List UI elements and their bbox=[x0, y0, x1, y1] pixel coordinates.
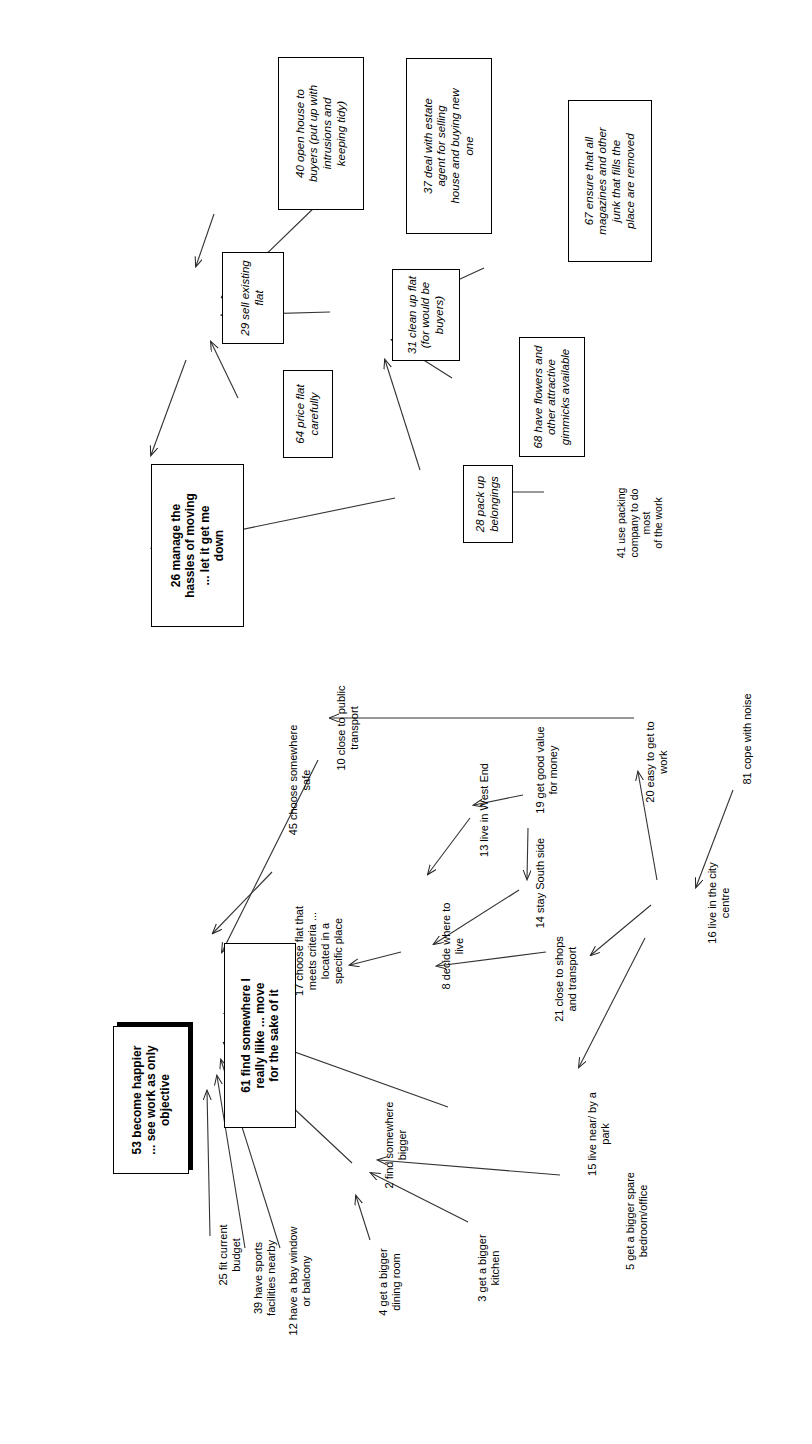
node-8-label: 8 decide where to live bbox=[434, 892, 472, 1000]
node-3[interactable]: 3 get a bigger kitchen bbox=[470, 1220, 508, 1316]
node-29-label: 29 sell existing flat bbox=[222, 252, 284, 344]
node-81[interactable]: 81 cope with noise bbox=[737, 684, 757, 794]
node-13[interactable]: 13 live in West End bbox=[474, 752, 494, 868]
node-5[interactable]: 5 get a bigger spare bedroom/office bbox=[618, 1162, 656, 1280]
node-4-label: 4 get a bigger dining room bbox=[371, 1234, 409, 1330]
node-25-label: 25 fit current budget bbox=[211, 1210, 249, 1300]
node-41[interactable]: 41 use packing company to do most of the… bbox=[597, 486, 683, 560]
node-26[interactable]: 26 manage the hassles of moving ... let … bbox=[151, 464, 244, 627]
node-2-label: 2 find somewhere bigger bbox=[377, 1092, 415, 1198]
node-8[interactable]: 8 decide where to live bbox=[434, 892, 472, 1000]
node-41-label: 41 use packing company to do most of the… bbox=[597, 486, 683, 560]
node-13-label: 13 live in West End bbox=[474, 752, 494, 868]
node-67-label: 67 ensure that all magazines and other j… bbox=[568, 100, 652, 262]
node-2[interactable]: 2 find somewhere bigger bbox=[377, 1092, 415, 1198]
node-37[interactable]: 37 deal with estate agent for selling ho… bbox=[406, 58, 492, 234]
edge-16-15 bbox=[579, 938, 645, 1067]
node-19-label: 19 get good value for money bbox=[528, 718, 566, 822]
node-3-label: 3 get a bigger kitchen bbox=[470, 1220, 508, 1316]
node-5-label: 5 get a bigger spare bedroom/office bbox=[618, 1162, 656, 1280]
node-15-label: 15 live near/ by a park bbox=[580, 1082, 618, 1186]
node-25[interactable]: 25 fit current budget bbox=[211, 1210, 249, 1300]
node-68-label: 68 have flowers and other attractive gim… bbox=[519, 337, 585, 457]
node-64-label: 64 price flat carefully bbox=[283, 370, 333, 458]
node-21[interactable]: 21 close to shops and transport bbox=[547, 925, 585, 1033]
edge-16-21 bbox=[591, 905, 651, 955]
node-29[interactable]: 29 sell existing flat bbox=[222, 252, 284, 344]
edge-19-14 bbox=[527, 828, 528, 879]
node-15[interactable]: 15 live near/ by a park bbox=[580, 1082, 618, 1186]
edge-45-61 bbox=[213, 872, 272, 933]
edge-29-26 bbox=[151, 360, 186, 455]
node-21-label: 21 close to shops and transport bbox=[547, 925, 585, 1033]
node-40-label: 40 open house to buyers (put up with int… bbox=[278, 57, 364, 210]
edge-64-29 bbox=[211, 342, 238, 398]
node-64[interactable]: 64 price flat carefully bbox=[283, 370, 333, 458]
node-4[interactable]: 4 get a bigger dining room bbox=[371, 1234, 409, 1330]
node-81-label: 81 cope with noise bbox=[737, 684, 757, 794]
node-67[interactable]: 67 ensure that all magazines and other j… bbox=[568, 100, 652, 262]
node-39[interactable]: 39 have sports facilities nearby bbox=[246, 1226, 284, 1330]
node-31-label: 31 clean up flat (for would be buyers) bbox=[392, 269, 460, 361]
diagram-canvas: 40 open house to buyers (put up with int… bbox=[0, 0, 812, 1444]
node-17-label: 17 choose flat that meets criteria ... l… bbox=[284, 884, 354, 1018]
node-37-label: 37 deal with estate agent for selling ho… bbox=[406, 58, 492, 234]
node-39-label: 39 have sports facilities nearby bbox=[246, 1226, 284, 1330]
node-53-label: 53 become happier ... see work as only o… bbox=[113, 1026, 189, 1174]
node-45-label: 45 choose somewhere safe bbox=[281, 720, 319, 840]
node-19[interactable]: 19 get good value for money bbox=[528, 718, 566, 822]
node-16[interactable]: 16 live in the city centre bbox=[700, 851, 738, 955]
edge-4-2 bbox=[356, 1196, 370, 1240]
node-10[interactable]: 10 close to public transport bbox=[329, 668, 367, 788]
node-45[interactable]: 45 choose somewhere safe bbox=[281, 720, 319, 840]
node-10-label: 10 close to public transport bbox=[329, 668, 367, 788]
edge-40-29 bbox=[196, 214, 214, 266]
node-20[interactable]: 20 easy to get to work bbox=[638, 712, 676, 812]
node-40[interactable]: 40 open house to buyers (put up with int… bbox=[278, 57, 364, 210]
edge-28-31 bbox=[385, 360, 420, 470]
node-14-label: 14 stay South side bbox=[530, 828, 550, 938]
node-12[interactable]: 12 have a bay window or balcony bbox=[281, 1220, 319, 1342]
node-14[interactable]: 14 stay South side bbox=[530, 828, 550, 938]
node-16-label: 16 live in the city centre bbox=[700, 851, 738, 955]
node-68[interactable]: 68 have flowers and other attractive gim… bbox=[519, 337, 585, 457]
node-28-label: 28 pack up belongings bbox=[463, 465, 513, 543]
node-28[interactable]: 28 pack up belongings bbox=[463, 465, 513, 543]
node-31[interactable]: 31 clean up flat (for would be buyers) bbox=[392, 269, 460, 361]
node-20-label: 20 easy to get to work bbox=[638, 712, 676, 812]
edge-8-17 bbox=[350, 952, 401, 965]
node-17[interactable]: 17 choose flat that meets criteria ... l… bbox=[284, 884, 354, 1018]
node-26-label: 26 manage the hassles of moving ... let … bbox=[151, 464, 244, 627]
node-53[interactable]: 53 become happier ... see work as only o… bbox=[113, 1026, 189, 1174]
node-12-label: 12 have a bay window or balcony bbox=[281, 1220, 319, 1342]
edge-25-61 bbox=[207, 1091, 210, 1236]
edge-13-8 bbox=[428, 818, 470, 874]
